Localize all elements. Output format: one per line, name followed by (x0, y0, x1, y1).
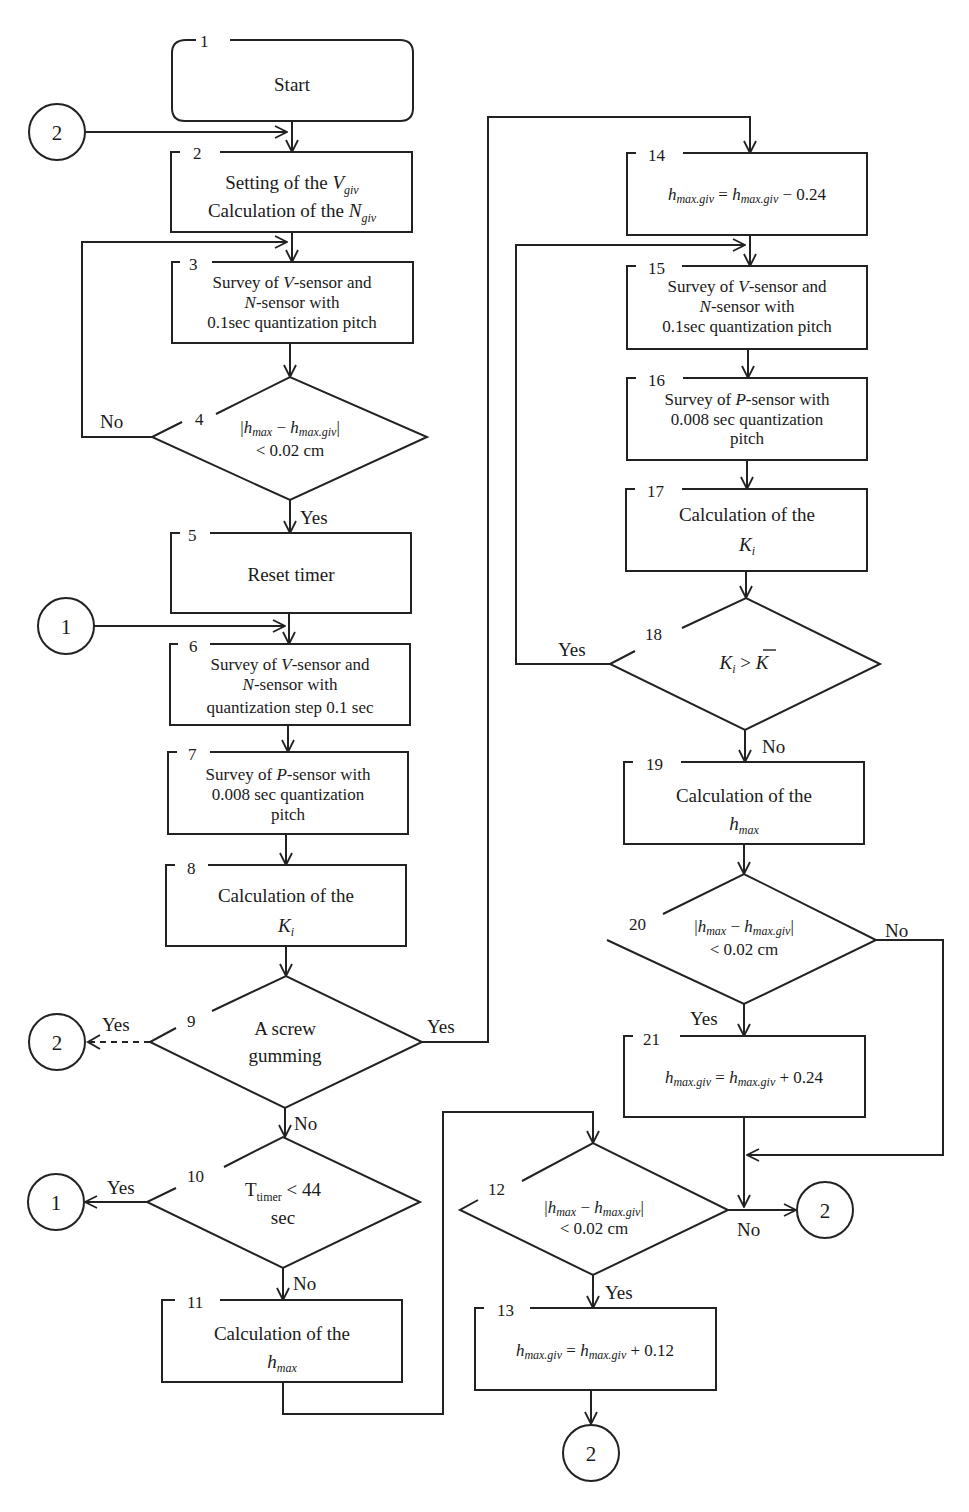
text: < 0.02 cm (256, 441, 325, 460)
svg-text:hmax: hmax (729, 813, 759, 837)
text: max.giv (524, 1348, 562, 1362)
text: h (665, 1068, 674, 1087)
svg-text:Survey of P-sensor with: Survey of P-sensor with (206, 765, 371, 784)
text: P (275, 765, 286, 784)
decision-10-timer: 10 Ttimer < 44 sec (147, 1137, 420, 1268)
block-15-survey-vn: 15 Survey of V-sensor and N-sensor with … (627, 259, 867, 349)
text: pitch (730, 429, 764, 448)
block-number: 6 (189, 637, 198, 656)
svg-text:hmax.giv = hmax.giv + 0.24: hmax.giv = hmax.giv + 0.24 (665, 1068, 824, 1089)
arrow-12-no: No (728, 1210, 796, 1240)
block-number: 12 (488, 1180, 505, 1199)
svg-text:hmax.giv = hmax.giv − 0.24: hmax.giv = hmax.giv − 0.24 (668, 185, 827, 206)
text: h (548, 1198, 557, 1217)
yes-label: Yes (558, 639, 586, 660)
svg-text:Survey of V-sensor and: Survey of V-sensor and (212, 273, 372, 292)
block-2-setting: 2 Setting of the Vgiv Calculation of the… (171, 144, 412, 232)
svg-text:|hmax − hmax.giv|: |hmax − hmax.giv| (544, 1198, 644, 1219)
text: < 0.02 cm (560, 1219, 629, 1238)
text: i (291, 925, 294, 939)
text: h (729, 813, 739, 834)
svg-text:Setting of the Vgiv: Setting of the Vgiv (225, 172, 359, 197)
text: i (752, 544, 755, 558)
decision-20-height-check: 20 |hmax − hmax.giv| < 0.02 cm (607, 874, 876, 1004)
block-number: 20 (629, 915, 646, 934)
text: h (267, 1351, 277, 1372)
svg-text:N-sensor with: N-sensor with (244, 293, 340, 312)
block-number: 19 (646, 755, 663, 774)
text: max.giv (299, 425, 337, 439)
text: 0.008 sec quantization (671, 410, 824, 429)
block-7-survey-p: 7 Survey of P-sensor with 0.008 sec quan… (168, 745, 408, 834)
block-1-start: 1 Start (172, 32, 413, 121)
block-number: 14 (648, 146, 666, 165)
block-number: 4 (195, 410, 204, 429)
svg-text:Ki: Ki (277, 915, 294, 939)
text: + 0.12 (626, 1341, 674, 1360)
text: -sensor and (294, 273, 372, 292)
text: K (755, 652, 770, 673)
text: − (272, 418, 290, 437)
no-label: No (100, 411, 123, 432)
no-label: No (762, 736, 785, 757)
connector-label: 2 (820, 1199, 831, 1223)
flowchart-canvas: 1 Start 2 2 Setting of the Vgiv Calculat… (0, 0, 969, 1512)
text: h (729, 1068, 738, 1087)
connector-2-bottom: 2 (563, 1425, 619, 1481)
block-21-increase-hgiv: 21 hmax.giv = hmax.giv + 0.24 (624, 1030, 865, 1117)
text: pitch (271, 805, 305, 824)
text: max (252, 425, 273, 439)
svg-text:Calculation of the Ngiv: Calculation of the Ngiv (208, 200, 377, 225)
block-8-calc-ki: 8 Calculation of the Ki (166, 859, 406, 946)
connector-1-left: 1 (38, 598, 285, 654)
svg-text:Survey of P-sensor with: Survey of P-sensor with (665, 390, 830, 409)
text: max (706, 924, 727, 938)
text: − (726, 917, 744, 936)
block-number: 18 (645, 625, 662, 644)
yes-label: Yes (690, 1008, 718, 1029)
text: = (714, 185, 732, 204)
text: giv (361, 211, 376, 225)
connector-label: 2 (586, 1442, 597, 1466)
text: − (576, 1198, 594, 1217)
connector-2-right: 2 (797, 1182, 853, 1238)
text: > (736, 652, 756, 673)
text: h (668, 185, 677, 204)
text: 0.1sec quantization pitch (207, 313, 377, 332)
text: -sensor and (292, 655, 370, 674)
block-number: 5 (188, 526, 197, 545)
block-number: 8 (187, 859, 196, 878)
arrow-9-yes-dashed: Yes (88, 1014, 150, 1049)
text: quantization step 0.1 sec (206, 698, 374, 717)
text: h (290, 418, 299, 437)
svg-text:|hmax − hmax.giv|: |hmax − hmax.giv| (694, 917, 794, 938)
text: giv (344, 183, 359, 197)
text: Calculation of the (679, 504, 815, 525)
text: Survey of (206, 765, 277, 784)
block-number: 1 (200, 32, 209, 51)
text: P (734, 390, 745, 409)
block-number: 17 (647, 482, 665, 501)
text: max.giv (673, 1075, 711, 1089)
text: max.giv (753, 924, 791, 938)
block-17-calc-ki: 17 Calculation of the Ki (626, 482, 867, 571)
text: Calculation of the (214, 1323, 350, 1344)
text: -sensor and (749, 277, 827, 296)
text: < 0.02 cm (710, 940, 779, 959)
block-6-survey-vn: 6 Survey of V-sensor and N-sensor with q… (170, 637, 410, 725)
no-label: No (293, 1273, 316, 1294)
block-number: 16 (648, 371, 665, 390)
text: -sensor with (746, 390, 830, 409)
text: 0.008 sec quantization (212, 785, 365, 804)
text: Survey of (212, 273, 283, 292)
svg-text:Survey of V-sensor and: Survey of V-sensor and (210, 655, 370, 674)
text: max (739, 823, 760, 837)
connector-label: 1 (61, 615, 72, 639)
yes-label: Yes (427, 1016, 455, 1037)
block-number: 21 (643, 1030, 660, 1049)
svg-text:N-sensor with: N-sensor with (242, 675, 338, 694)
block-number: 11 (187, 1293, 203, 1312)
text: 0.1sec quantization pitch (662, 317, 832, 336)
text: max (556, 1205, 577, 1219)
block-14-decrease-hgiv: 14 hmax.giv = hmax.giv − 0.24 (627, 146, 867, 235)
